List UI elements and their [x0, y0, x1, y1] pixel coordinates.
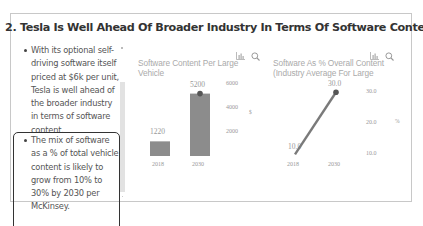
bar-hover-marker	[197, 91, 203, 97]
bar-2030[interactable]	[190, 94, 210, 156]
bar-2018[interactable]	[150, 141, 170, 156]
line-point-marker	[333, 89, 339, 95]
line-series[interactable]	[295, 92, 336, 154]
charts-plot-area	[0, 0, 423, 226]
